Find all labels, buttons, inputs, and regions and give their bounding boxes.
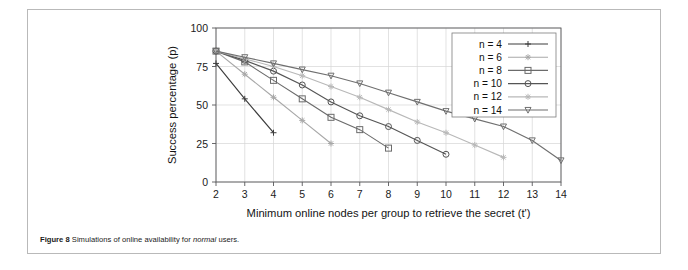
x-axis-title: Minimum online nodes per group to retrie… <box>247 207 531 219</box>
chart-plot-area: 2345678910111213140255075100Minimum onli… <box>28 10 662 222</box>
x-tick-label: 3 <box>242 188 248 200</box>
y-axis-title: Success percentage (p) <box>166 46 178 164</box>
x-tick-label: 10 <box>440 188 452 200</box>
legend-label: n = 14 <box>473 105 502 116</box>
figure-panel: 2345678910111213140255075100Minimum onli… <box>27 9 661 254</box>
x-tick-label: 14 <box>555 188 567 200</box>
legend-label: n = 6 <box>479 52 502 63</box>
y-tick-label: 75 <box>196 61 208 73</box>
caption-text-before: Simulations of online availability for <box>70 235 193 244</box>
line-chart: 2345678910111213140255075100Minimum onli… <box>28 10 662 222</box>
x-tick-label: 7 <box>357 188 363 200</box>
legend-label: n = 10 <box>473 78 502 89</box>
y-tick-label: 100 <box>190 22 208 34</box>
y-tick-label: 50 <box>196 99 208 111</box>
x-tick-label: 11 <box>469 188 480 200</box>
figure-caption: Figure 8 Simulations of online availabil… <box>40 235 650 244</box>
legend-label: n = 8 <box>479 65 502 76</box>
legend-label: n = 12 <box>473 91 502 102</box>
x-tick-label: 5 <box>299 188 305 200</box>
legend-label: n = 4 <box>479 39 502 50</box>
x-tick-label: 8 <box>386 188 392 200</box>
x-tick-label: 9 <box>414 188 420 200</box>
caption-text-after: users. <box>216 235 239 244</box>
x-tick-label: 13 <box>526 188 538 200</box>
caption-figure-label: Figure 8 <box>40 235 70 244</box>
caption-emphasis: normal <box>193 235 216 244</box>
x-tick-label: 6 <box>328 188 334 200</box>
x-tick-label: 4 <box>271 188 277 200</box>
y-tick-label: 25 <box>196 138 208 150</box>
x-tick-label: 2 <box>213 188 219 200</box>
y-tick-label: 0 <box>202 176 208 188</box>
x-tick-label: 12 <box>498 188 510 200</box>
legend-box <box>452 33 556 117</box>
